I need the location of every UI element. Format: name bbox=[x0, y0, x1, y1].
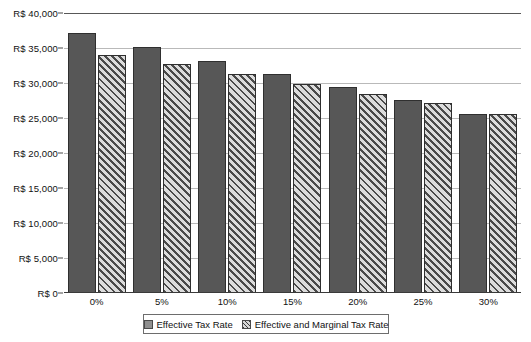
bar-group bbox=[195, 13, 260, 293]
y-axis-tick-mark bbox=[58, 188, 63, 189]
legend-item-effective-and-marginal-tax-rate: Effective and Marginal Tax Rate bbox=[242, 319, 389, 330]
y-axis-tick-mark bbox=[58, 223, 63, 224]
y-axis-tick-mark bbox=[58, 293, 63, 294]
y-axis-tick-label: R$ 15,000 bbox=[0, 183, 58, 194]
bar-group bbox=[129, 13, 194, 293]
legend-label: Effective Tax Rate bbox=[157, 319, 233, 330]
y-axis-tick-label: R$ 35,000 bbox=[0, 43, 58, 54]
bar bbox=[329, 87, 357, 293]
legend-swatch-icon-solid bbox=[144, 320, 153, 329]
y-axis-tick-label: R$ 10,000 bbox=[0, 218, 58, 229]
y-axis-tick-label: R$ 25,000 bbox=[0, 113, 58, 124]
y-axis-tick-mark bbox=[58, 13, 63, 14]
y-axis-tick-label: R$ 0 bbox=[0, 288, 58, 299]
bar bbox=[489, 114, 517, 293]
x-axis-labels: 0%5%10%15%20%25%30% bbox=[64, 296, 521, 312]
y-axis-tick-mark bbox=[58, 48, 63, 49]
bar-group bbox=[390, 13, 455, 293]
x-axis-tick-label: 10% bbox=[195, 296, 260, 312]
x-axis-tick-label: 25% bbox=[390, 296, 455, 312]
x-axis-tick-label: 0% bbox=[64, 296, 129, 312]
y-axis-tick-label: R$ 40,000 bbox=[0, 8, 58, 19]
bar-group bbox=[456, 13, 521, 293]
bar bbox=[68, 33, 96, 293]
bar bbox=[359, 94, 387, 294]
bar-chart: R$ 0R$ 5,000R$ 10,000R$ 15,000R$ 20,000R… bbox=[0, 0, 531, 342]
x-axis-tick-label: 30% bbox=[456, 296, 521, 312]
legend-item-effective-tax-rate: Effective Tax Rate bbox=[144, 319, 233, 330]
plot-area bbox=[64, 13, 521, 293]
bar bbox=[424, 103, 452, 293]
y-axis-tick-label: R$ 30,000 bbox=[0, 78, 58, 89]
legend-label: Effective and Marginal Tax Rate bbox=[255, 319, 389, 330]
axis-baseline bbox=[64, 292, 521, 293]
bar-groups bbox=[64, 13, 521, 293]
bar-group bbox=[64, 13, 129, 293]
x-axis-tick-label: 5% bbox=[129, 296, 194, 312]
bar-group bbox=[325, 13, 390, 293]
y-axis-tick-label: R$ 20,000 bbox=[0, 148, 58, 159]
x-axis-tick-label: 20% bbox=[325, 296, 390, 312]
chart-legend: Effective Tax Rate Effective and Margina… bbox=[143, 314, 389, 334]
bar bbox=[293, 84, 321, 293]
y-axis-tick-label: R$ 5,000 bbox=[0, 253, 58, 264]
y-axis-tick-mark bbox=[58, 258, 63, 259]
y-axis-tick-mark bbox=[58, 153, 63, 154]
bar-group bbox=[260, 13, 325, 293]
bar bbox=[198, 61, 226, 293]
bar bbox=[98, 55, 126, 293]
x-axis-tick-label: 15% bbox=[260, 296, 325, 312]
bar bbox=[133, 47, 161, 293]
bar bbox=[459, 114, 487, 293]
y-axis-tick-mark bbox=[58, 83, 63, 84]
legend-swatch-icon-hatched bbox=[242, 320, 251, 329]
bar bbox=[394, 100, 422, 293]
y-axis-tick-mark bbox=[58, 118, 63, 119]
bar bbox=[228, 74, 256, 293]
bar bbox=[263, 74, 291, 293]
bar bbox=[163, 64, 191, 293]
